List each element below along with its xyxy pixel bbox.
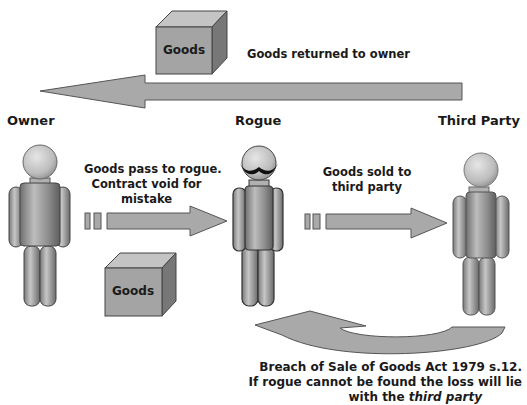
owner-to-rogue-caption-line-2: Contract void for: [84, 177, 209, 192]
return-arrow: [40, 75, 462, 108]
owner-label: Owner: [7, 113, 55, 128]
goods-box-bottom-label: Goods: [112, 284, 154, 298]
third-party-figure: [453, 153, 509, 315]
owner-to-rogue-caption: Goods pass to rogue. Contract void for m…: [84, 162, 209, 207]
arrow-owner-to-rogue: [85, 206, 227, 236]
footer-line-3-emphasis: third party: [409, 390, 482, 404]
owner-to-rogue-caption-line-1: Goods pass to rogue.: [84, 162, 209, 177]
footer-line-3-prefix: with the: [348, 390, 408, 404]
rogue-to-third-party-caption-line-2: third party: [322, 180, 412, 195]
rogue-label: Rogue: [235, 113, 281, 128]
owner-figure: [9, 145, 70, 306]
third-party-label: Third Party: [438, 113, 520, 128]
footer-note: Breach of Sale of Goods Act 1979 s.12. I…: [248, 360, 522, 405]
goods-box-top-label: Goods: [163, 43, 205, 57]
curved-arrow-loss: [255, 311, 505, 354]
footer-line-2: If rogue cannot be found the loss will l…: [248, 375, 522, 390]
owner-to-rogue-caption-line-3: mistake: [84, 192, 209, 207]
footer-line-3: with the third party: [248, 390, 522, 405]
rogue-to-third-party-caption: Goods sold to third party: [322, 165, 412, 195]
arrow-rogue-to-third-party: [305, 208, 447, 238]
footer-line-1: Breach of Sale of Goods Act 1979 s.12.: [248, 360, 522, 375]
rogue-to-third-party-caption-line-1: Goods sold to: [322, 165, 412, 180]
return-arrow-label: Goods returned to owner: [247, 47, 410, 62]
rogue-figure: [233, 146, 283, 306]
